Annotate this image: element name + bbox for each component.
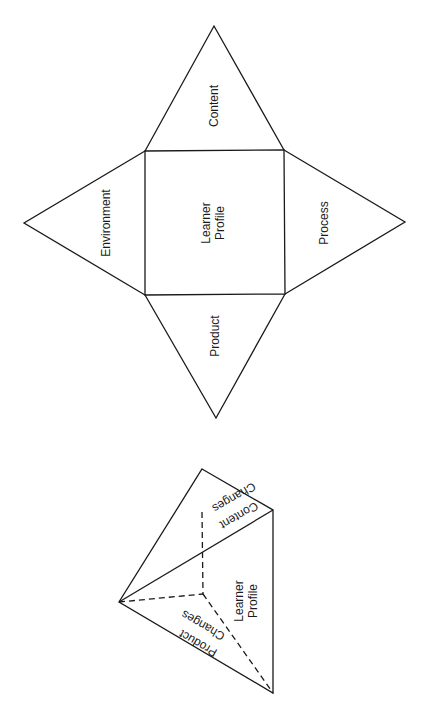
pyramid-label-profile: Profile <box>246 584 260 618</box>
pyramid-label-learner: Learner <box>232 580 246 621</box>
pyramid-3d: Content Changes Product Changes Learner … <box>119 469 273 693</box>
pyramid-hidden-edge-top <box>202 512 203 594</box>
pyramid-net: Content Environment Process Product Lear… <box>24 26 405 418</box>
net-left-triangle <box>24 151 145 295</box>
diagram-canvas: Content Environment Process Product Lear… <box>0 0 421 724</box>
net-right-triangle <box>284 150 405 294</box>
net-label-environment: Environment <box>99 189 113 257</box>
net-label-process: Process <box>317 201 331 244</box>
net-label-learner: Learner <box>199 202 213 243</box>
net-label-profile: Profile <box>213 206 227 240</box>
net-label-product: Product <box>208 315 222 357</box>
net-label-content: Content <box>207 84 221 127</box>
